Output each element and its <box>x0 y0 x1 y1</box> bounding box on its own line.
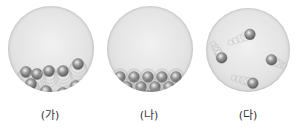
particle <box>150 82 161 93</box>
flask-gas <box>206 8 290 92</box>
particle <box>73 59 84 70</box>
particle <box>26 79 37 90</box>
particle <box>178 82 189 93</box>
particle <box>58 88 69 93</box>
panel-ga: (가) <box>0 0 100 129</box>
label-da: (다) <box>198 106 298 122</box>
particle <box>41 86 52 93</box>
flask-liquid <box>8 6 94 92</box>
particles-liquid <box>8 6 94 92</box>
particle <box>122 82 133 93</box>
particle <box>245 29 256 40</box>
particle <box>136 82 147 93</box>
particle <box>44 66 55 77</box>
panel-na: (나) <box>99 0 199 129</box>
particle <box>164 82 175 93</box>
particles-solid <box>107 6 193 92</box>
particle <box>129 91 140 93</box>
flask-solid <box>107 6 193 92</box>
particle <box>216 52 227 63</box>
label-na: (나) <box>99 106 199 122</box>
panel-da: (다) <box>198 0 298 129</box>
particles-gas <box>206 8 290 92</box>
particle <box>58 66 69 77</box>
particle <box>266 54 277 65</box>
label-ga: (가) <box>0 106 100 122</box>
particle <box>71 81 82 92</box>
particle <box>248 78 259 89</box>
